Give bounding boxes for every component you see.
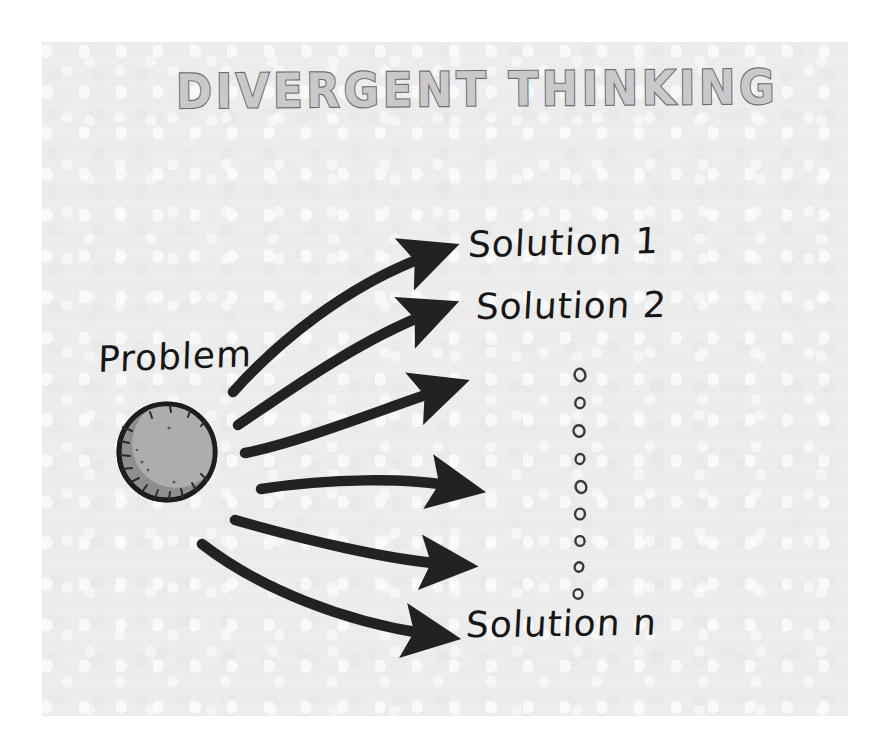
ellipsis-dot (575, 453, 586, 465)
arrow-group (202, 256, 452, 634)
diagram-artwork (0, 0, 890, 744)
ellipsis-dot (573, 589, 583, 599)
arrow-to-unlabeled-4 (261, 480, 452, 489)
vertical-ellipsis (572, 368, 588, 599)
figure-canvas: DIVERGENT THINKING Problem Solution 1 So… (0, 0, 890, 744)
ellipsis-dot (574, 561, 585, 572)
ellipsis-dot (575, 508, 586, 520)
ellipsis-dot (575, 397, 586, 409)
ellipsis-dot (574, 479, 588, 494)
ellipsis-dot (573, 368, 586, 382)
arrow-to-unlabeled-5 (235, 520, 444, 564)
ellipsis-dot (575, 535, 586, 546)
ellipsis-dot (572, 424, 586, 438)
problem-circle (119, 400, 220, 500)
